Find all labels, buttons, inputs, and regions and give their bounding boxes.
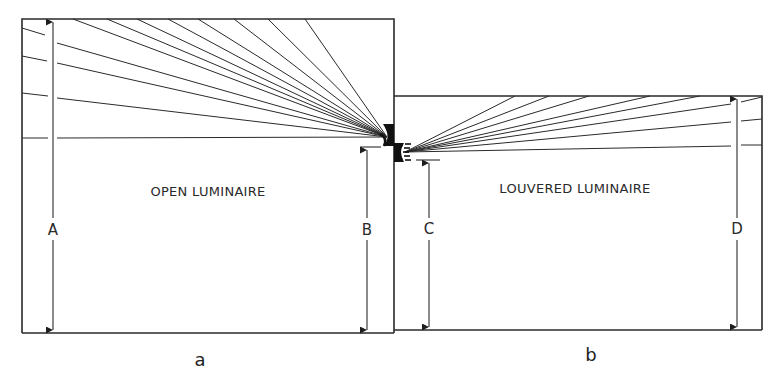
louvered-luminaire-fixture — [394, 143, 411, 162]
luminaire-comparison-diagram: A B OPEN LUMINAIRE a — [0, 0, 773, 381]
light-rays-a — [73, 19, 387, 137]
dimension-label-d: D — [731, 220, 743, 238]
light-rays-b — [405, 96, 700, 152]
dimension-label-a: A — [48, 221, 59, 239]
dimension-label-b: B — [362, 221, 372, 239]
panel-b-louvered-luminaire: C D LOUVERED LUMINAIRE b — [394, 96, 762, 365]
dimension-label-c: C — [424, 220, 434, 238]
room-label-open-luminaire: OPEN LUMINAIRE — [150, 184, 265, 199]
room-label-louvered-luminaire: LOUVERED LUMINAIRE — [499, 181, 650, 196]
panel-a-open-luminaire: A B OPEN LUMINAIRE a — [22, 19, 394, 370]
panel-caption-b: b — [585, 344, 596, 365]
dimension-c — [416, 160, 440, 327]
room-b-outline — [394, 96, 762, 330]
panel-caption-a: a — [194, 349, 205, 370]
open-luminaire-fixture — [380, 124, 394, 146]
